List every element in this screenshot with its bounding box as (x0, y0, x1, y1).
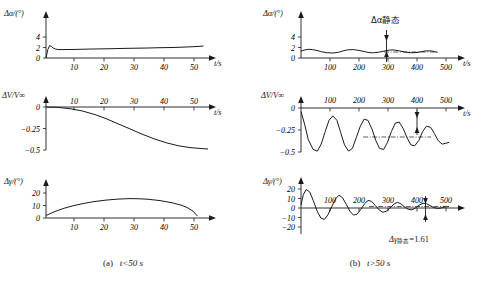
y-axis-label-a1: Δα/(°) (4, 8, 24, 18)
svg-text:500: 500 (440, 63, 452, 72)
caption-b-text: t>50 s (367, 258, 390, 268)
x-axis-label-b2: t/s (463, 108, 470, 118)
caption-a-text: t<50 s (120, 258, 143, 268)
svg-text:30: 30 (129, 97, 138, 106)
svg-text:50: 50 (190, 97, 198, 106)
caption-a-prefix: (a) (103, 258, 113, 268)
svg-text:40: 40 (160, 223, 168, 232)
svg-text:10: 10 (32, 202, 40, 211)
svg-text:20: 20 (100, 63, 108, 72)
svg-text:30: 30 (129, 223, 138, 232)
gamma-static-annotation: Δγ静态=1.61 (389, 234, 429, 245)
plot-panel-a3: Δγ/(°) 0 10 20 10 20 (0, 172, 246, 250)
x-axis-label-a1: t/s (214, 58, 221, 68)
svg-text:200: 200 (353, 96, 365, 105)
caption-a: (a) t<50 s (0, 258, 246, 268)
figure-container: Δα/(°) 0 2 4 10 (0, 0, 493, 287)
svg-text:10: 10 (70, 63, 78, 72)
plot-panel-b1: Δα/(°) 0 2 4 100 200 (247, 0, 493, 80)
svg-text:50: 50 (190, 223, 198, 232)
svg-text:200: 200 (353, 63, 365, 72)
svg-text:100: 100 (324, 63, 336, 72)
caption-b: (b) t>50 s (247, 258, 493, 268)
svg-text:4: 4 (36, 33, 40, 42)
plot-panel-a1: Δα/(°) 0 2 4 10 (0, 0, 246, 80)
y-axis-label-b1: Δα/(°) (263, 8, 283, 18)
plot-svg-b1: 0 2 4 100 200 300 400 500 (247, 0, 493, 80)
svg-text:0: 0 (291, 204, 295, 213)
figure-column-b: Δα/(°) 0 2 4 100 200 (247, 0, 493, 287)
svg-text:40: 40 (160, 97, 168, 106)
plot-svg-a2: 0 −0.25 −0.5 10 20 30 40 50 (0, 82, 246, 167)
svg-text:10: 10 (70, 223, 78, 232)
svg-text:−0.25: −0.25 (276, 126, 295, 135)
svg-text:2: 2 (36, 44, 40, 53)
svg-text:20: 20 (100, 97, 108, 106)
figure-column-a: Δα/(°) 0 2 4 10 (0, 0, 246, 287)
plot-svg-a3: 0 10 20 10 20 30 40 50 (0, 172, 246, 250)
x-axis-label-b1: t/s (463, 58, 470, 68)
svg-text:500: 500 (440, 196, 452, 205)
svg-text:0: 0 (291, 104, 295, 113)
svg-text:20: 20 (100, 223, 108, 232)
svg-text:20: 20 (287, 185, 295, 194)
svg-text:300: 300 (381, 96, 394, 105)
svg-text:300: 300 (381, 196, 394, 205)
plot-svg-a1: 0 2 4 10 20 30 40 50 (0, 0, 246, 80)
svg-text:−10: −10 (282, 214, 295, 223)
svg-text:0: 0 (36, 103, 40, 112)
svg-text:200: 200 (353, 196, 365, 205)
svg-text:500: 500 (440, 96, 452, 105)
svg-text:10: 10 (287, 195, 295, 204)
svg-text:−20: −20 (282, 223, 295, 232)
svg-text:100: 100 (324, 96, 336, 105)
svg-text:10: 10 (70, 97, 78, 106)
svg-text:300: 300 (381, 63, 394, 72)
y-axis-label-b3: Δγ/(°) (263, 176, 282, 186)
svg-text:−0.5: −0.5 (280, 148, 295, 157)
svg-text:4: 4 (291, 33, 295, 42)
plot-panel-a2: ΔV/V∞ 0 −0.25 −0.5 10 20 (0, 82, 246, 167)
svg-text:400: 400 (411, 63, 423, 72)
alpha-static-annotation: Δα静态 (371, 13, 400, 25)
plot-panel-b2: ΔV/V∞ 0 −0.25 −0.5 100 200 (247, 82, 493, 167)
svg-text:50: 50 (190, 63, 198, 72)
svg-text:−0.25: −0.25 (21, 125, 40, 134)
svg-text:30: 30 (129, 63, 138, 72)
svg-text:20: 20 (32, 189, 40, 198)
plot-panel-b3: Δγ/(°) 20 10 0 −10 −20 (247, 172, 493, 257)
caption-b-prefix: (b) (350, 258, 361, 268)
x-axis-label-a2: t/s (214, 107, 221, 117)
svg-text:−0.5: −0.5 (25, 146, 40, 155)
svg-text:0: 0 (36, 54, 40, 63)
svg-text:40: 40 (160, 63, 168, 72)
y-axis-label-a3: Δγ/(°) (4, 176, 23, 186)
plot-svg-b3: 20 10 0 −10 −20 100 200 300 400 500 (247, 172, 493, 257)
svg-text:0: 0 (291, 54, 295, 63)
y-axis-label-a2: ΔV/V∞ (2, 90, 25, 100)
svg-text:0: 0 (36, 214, 40, 223)
svg-text:2: 2 (291, 44, 295, 53)
y-axis-label-b2: ΔV/V∞ (261, 90, 284, 100)
svg-text:400: 400 (411, 96, 423, 105)
